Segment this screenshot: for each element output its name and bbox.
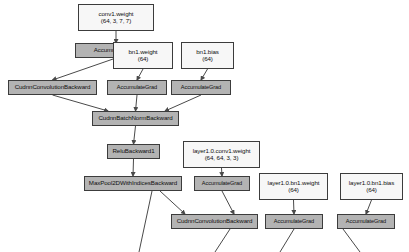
graph-edge-accgrad_bn1_b-to-cudnn_bn_bwd — [165, 95, 201, 111]
graph-node-conv1_weight[interactable]: conv1.weight(64, 3, 7, 7) — [78, 4, 154, 31]
graph-node-relu_bwd[interactable]: ReluBackward1 — [107, 144, 160, 159]
graph-edge-accgrad_conv1-to-cudnn_conv_bwd_1 — [53, 58, 117, 80]
node-shape-label: (64) — [138, 56, 149, 63]
graph-node-maxpool_bwd[interactable]: MaxPool2DWithIndicesBackward — [84, 176, 182, 191]
graph-node-accgrad_bn1_b[interactable]: AccumulateGrad — [171, 80, 231, 95]
graph-edge-cudnn_bn_bwd-to-relu_bwd — [134, 126, 136, 144]
graph-edge-bn1_bias-to-accgrad_bn1_b — [201, 69, 208, 80]
graph-edge-layer1_bn1_weight-to-accgrad_layer1_bn1_w — [294, 200, 295, 214]
graph-node-layer1_bn1_bias[interactable]: layer1.0.bn1.bias(64) — [340, 173, 403, 200]
node-label: CudnnBatchNormBackward — [98, 115, 172, 122]
node-shape-label: (64, 64, 3, 3) — [205, 155, 239, 162]
node-label: AccumulateGrad — [346, 218, 386, 224]
graph-edge-bn1_weight-to-accgrad_bn1_w — [137, 69, 143, 80]
node-label: AccumulateGrad — [202, 180, 242, 186]
autograd-graph-canvas: conv1.weight(64, 3, 7, 7)AccumulateGradb… — [0, 0, 409, 252]
graph-node-cudnn_bn_bwd[interactable]: CudnnBatchNormBackward — [92, 111, 179, 126]
node-label: AccumulateGrad — [181, 84, 221, 90]
graph-node-accgrad_layer1_bn1_b[interactable]: AccumulateGrad — [337, 214, 395, 229]
node-label: AccumulateGrad — [274, 218, 314, 224]
graph-node-layer1_conv1_weight[interactable]: layer1.0.conv1.weight(64, 64, 3, 3) — [183, 141, 260, 168]
graph-edge-relu_bwd-to-maxpool_bwd — [133, 159, 134, 176]
graph-edge-maxpool_bwd-to-below_1 — [139, 191, 152, 252]
node-shape-label: (64) — [288, 187, 299, 194]
graph-node-accgrad_bn1_w[interactable]: AccumulateGrad — [107, 80, 167, 95]
node-shape-label: (64, 3, 7, 7) — [101, 18, 131, 25]
graph-edge-accgrad_layer1_bn1_b-to-below_4 — [343, 229, 360, 252]
node-label: CudnnConvolutionBackward — [177, 218, 253, 225]
graph-edge-accgrad_layer1_bn1_w-to-below_3 — [280, 229, 294, 252]
graph-edge-cudnn_conv_bwd_1-to-cudnn_bn_bwd — [53, 95, 109, 111]
graph-node-accgrad_layer1_conv1[interactable]: AccumulateGrad — [194, 176, 250, 191]
graph-node-cudnn_conv_bwd_1[interactable]: CudnnConvolutionBackward — [8, 80, 97, 95]
node-label: ReluBackward1 — [112, 148, 154, 155]
graph-node-layer1_bn1_weight[interactable]: layer1.0.bn1.weight(64) — [259, 173, 328, 200]
graph-edge-layer1_conv1_weight-to-accgrad_layer1_conv1 — [222, 168, 223, 176]
graph-node-bn1_bias[interactable]: bn1.bias(64) — [181, 42, 234, 69]
graph-edge-accgrad_layer1_conv1-to-cudnn_conv_bwd_2 — [222, 191, 234, 214]
graph-node-bn1_weight[interactable]: bn1.weight(64) — [113, 42, 173, 69]
graph-edge-layer1_bn1_bias-to-accgrad_layer1_bn1_b — [366, 200, 372, 214]
node-label: MaxPool2DWithIndicesBackward — [89, 180, 177, 187]
graph-edge-cudnn_conv_bwd_2-to-below_2 — [215, 229, 230, 252]
node-shape-label: (64) — [366, 187, 377, 194]
graph-node-accgrad_layer1_bn1_w[interactable]: AccumulateGrad — [265, 214, 323, 229]
graph-node-cudnn_conv_bwd_2[interactable]: CudnnConvolutionBackward — [171, 214, 258, 229]
graph-edge-accgrad_bn1_w-to-cudnn_bn_bwd — [136, 95, 138, 111]
node-shape-label: (64) — [202, 56, 213, 63]
graph-edge-maxpool_bwd-to-cudnn_conv_bwd_2 — [160, 191, 185, 214]
node-label: AccumulateGrad — [117, 84, 157, 90]
node-label: CudnnConvolutionBackward — [15, 84, 91, 91]
